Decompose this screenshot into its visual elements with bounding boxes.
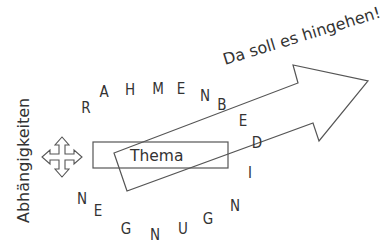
frame-letter: E — [94, 202, 103, 220]
frame-letter: N — [230, 197, 240, 215]
frame-letter: A — [99, 83, 109, 101]
goal-label: Da soll es hingehen! — [221, 3, 383, 69]
diagram-canvas: Thema Da soll es hingehen! Abhängigkeite… — [0, 0, 385, 250]
frame-letter: N — [200, 87, 210, 105]
dependencies-label: Abhängigkeiten — [14, 98, 33, 223]
topic-label: Thema — [129, 147, 183, 165]
frame-letter: E — [239, 112, 248, 130]
frame-letter: B — [217, 96, 226, 114]
frame-letter: G — [121, 220, 131, 238]
four-way-arrows-icon — [42, 137, 82, 177]
frame-letter: U — [178, 220, 188, 238]
frame-letter: E — [177, 80, 186, 98]
frame-letter: M — [152, 80, 164, 98]
frame-letter: I — [248, 164, 252, 182]
frame-letter: R — [81, 99, 90, 117]
frame-letter: D — [252, 134, 262, 152]
frame-letter: G — [203, 210, 213, 228]
frame-letter: H — [125, 81, 135, 99]
frame-letter: N — [77, 190, 87, 208]
frame-letter: N — [150, 226, 160, 244]
